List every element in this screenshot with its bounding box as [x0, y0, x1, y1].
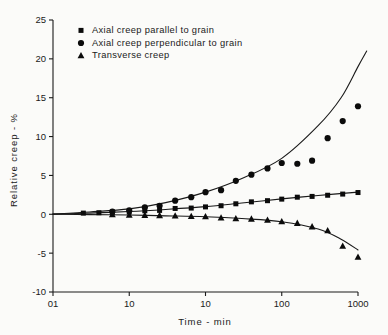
data-point-square — [356, 190, 361, 195]
x-axis-ticks — [53, 292, 358, 296]
y-tick-label: -5 — [38, 248, 46, 259]
data-point-triangle — [355, 253, 362, 259]
chart-canvas: 2520151050-5-10 0110101001000 Time - min… — [0, 0, 388, 335]
x-tick-label: 01 — [48, 298, 59, 309]
data-point-square — [310, 194, 315, 199]
data-point-circle — [202, 189, 208, 195]
fit-curve — [53, 214, 358, 250]
data-point-circle — [264, 165, 270, 171]
legend-label: Axial creep parallel to grain — [92, 25, 214, 35]
data-point-triangle — [78, 52, 85, 58]
data-point-square — [219, 203, 224, 208]
y-tick-label: 5 — [41, 170, 46, 181]
data-point-circle — [156, 203, 162, 209]
data-point-square — [96, 210, 101, 215]
data-point-triangle — [172, 212, 179, 218]
data-point-square — [340, 192, 345, 197]
legend-label: Axial creep perpendicular to grain — [92, 38, 242, 48]
data-point-circle — [172, 198, 178, 204]
y-axis-tick-labels: 2520151050-5-10 — [32, 14, 46, 297]
y-axis-title: Relative creep - % — [8, 113, 19, 207]
y-tick-label: 10 — [35, 131, 46, 142]
data-point-square — [295, 195, 300, 200]
data-point-circle — [325, 135, 331, 141]
data-points — [81, 103, 362, 260]
x-axis-title: Time - min — [178, 316, 232, 327]
fit-curve — [53, 51, 367, 214]
y-tick-label: 25 — [35, 14, 46, 25]
data-point-triangle — [324, 227, 331, 233]
y-tick-label: 20 — [35, 53, 46, 64]
data-point-circle — [142, 204, 148, 210]
x-tick-label: 100 — [274, 298, 290, 309]
fit-curves — [53, 51, 367, 250]
data-point-square — [203, 204, 208, 209]
y-axis-ticks — [49, 20, 53, 292]
data-point-square — [189, 206, 194, 211]
data-point-circle — [279, 160, 285, 166]
x-tick-label: 10 — [200, 298, 211, 309]
data-point-triangle — [339, 243, 346, 249]
data-point-square — [249, 199, 254, 204]
data-point-circle — [78, 40, 84, 46]
x-axis-tick-labels: 0110101001000 — [48, 298, 369, 309]
y-tick-label: -10 — [32, 286, 46, 297]
data-point-square — [279, 197, 284, 202]
data-point-circle — [248, 172, 254, 178]
data-point-circle — [309, 158, 315, 164]
data-point-square — [173, 206, 178, 211]
x-tick-label: 10 — [124, 298, 135, 309]
data-point-square — [79, 28, 84, 33]
data-point-square — [325, 193, 330, 198]
data-point-square — [233, 201, 238, 206]
data-point-square — [81, 211, 86, 216]
legend-label: Transverse creep — [92, 50, 170, 60]
data-point-square — [265, 198, 270, 203]
y-tick-label: 15 — [35, 92, 46, 103]
y-tick-label: 0 — [41, 209, 46, 220]
data-point-circle — [340, 118, 346, 124]
data-point-circle — [233, 178, 239, 184]
x-tick-label: 1000 — [347, 298, 368, 309]
data-point-circle — [218, 187, 224, 193]
creep-vs-time-chart: 2520151050-5-10 0110101001000 Time - min… — [0, 0, 388, 335]
chart-legend: Axial creep parallel to grainAxial creep… — [78, 25, 243, 60]
data-point-circle — [188, 194, 194, 200]
data-point-circle — [355, 103, 361, 109]
data-point-circle — [294, 161, 300, 167]
data-point-triangle — [294, 220, 301, 226]
